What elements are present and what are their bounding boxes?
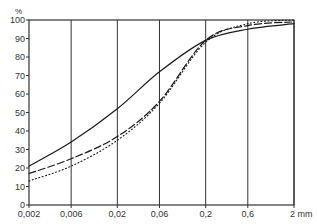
x-tick-label: 0,06 <box>151 209 169 219</box>
series-dashed-line <box>29 22 294 174</box>
y-tick-label: 20 <box>15 163 25 173</box>
y-axis: 0102030405060708090100 <box>10 15 29 210</box>
y-tick-label: 90 <box>15 34 25 44</box>
x-tick-label: 0,02 <box>109 209 127 219</box>
series-lines <box>29 20 294 181</box>
y-tick-label: 30 <box>15 145 25 155</box>
series-dotted-line <box>29 20 294 181</box>
x-tick-label: 0,006 <box>60 209 83 219</box>
grain-size-chart: 0102030405060708090100 0,0020,0060,020,0… <box>0 0 317 224</box>
vertical-gridlines <box>71 20 294 205</box>
x-tick-label: 2 mm <box>290 209 313 219</box>
y-tick-label: 10 <box>15 182 25 192</box>
x-tick-label: 0,2 <box>199 209 212 219</box>
y-unit-label: % <box>15 7 22 16</box>
x-tick-label: 0,002 <box>18 209 41 219</box>
x-axis: 0,0020,0060,020,060,20,62 mm <box>18 205 313 219</box>
series-solid-line <box>29 24 294 166</box>
y-tick-label: 40 <box>15 126 25 136</box>
y-tick-label: 80 <box>15 52 25 62</box>
y-tick-label: 60 <box>15 89 25 99</box>
y-tick-label: 70 <box>15 71 25 81</box>
plot-frame <box>29 20 294 205</box>
x-tick-label: 0,6 <box>242 209 255 219</box>
y-tick-label: 100 <box>10 15 25 25</box>
y-tick-label: 50 <box>15 108 25 118</box>
